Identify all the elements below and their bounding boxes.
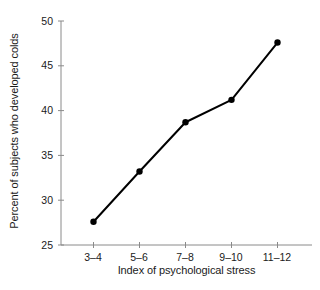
data-point-9–10 — [228, 97, 234, 103]
axis-spines — [61, 21, 312, 245]
data-point-11–12 — [274, 39, 280, 45]
data-line — [94, 43, 278, 222]
data-point-7–8 — [182, 119, 188, 125]
data-markers — [90, 39, 280, 225]
chart-figure: Percent of subjects who developed colds … — [0, 0, 320, 290]
plot-area — [0, 0, 320, 290]
data-point-3–4 — [90, 219, 96, 225]
data-point-5–6 — [136, 168, 142, 174]
